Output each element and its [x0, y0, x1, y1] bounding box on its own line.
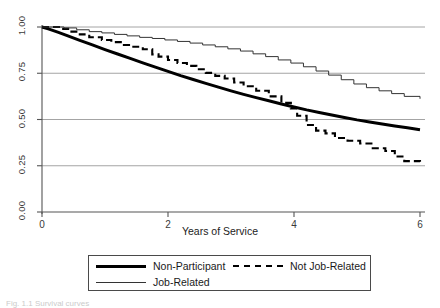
legend-label: Job-Related [153, 276, 210, 288]
y-tick-label: 0.50 [16, 103, 27, 133]
figure-caption: Fig. 1.1 Survival curves [6, 299, 89, 308]
y-tick-label: 0.25 [16, 149, 27, 179]
legend-swatch-solid-thin [96, 282, 146, 283]
legend-label: Not Job-Related [290, 260, 366, 272]
y-tick-label: 1.00 [16, 11, 27, 41]
legend-item-job-related: Job-Related [96, 276, 210, 288]
series-line-non-participant [42, 27, 420, 130]
y-tick-label: 0.75 [16, 57, 27, 87]
legend-item-not-job-related: Not Job-Related [233, 260, 366, 272]
legend-swatch-dashed [233, 265, 283, 267]
legend-item-non-participant: Non-Participant [96, 260, 225, 272]
gridlines [42, 27, 425, 212]
legend-swatch-solid-thick [96, 265, 146, 268]
legend-label: Non-Participant [153, 260, 225, 272]
x-axis-title: Years of Service [0, 225, 440, 237]
data-series-group [42, 27, 420, 162]
y-tick-label: 0.00 [16, 196, 27, 226]
